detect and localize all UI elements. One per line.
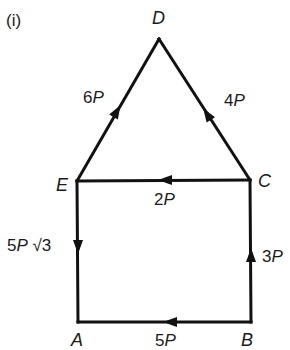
arrow-icon-CE: [158, 175, 172, 185]
diagram-canvas: (i) D E C A B 6P 4P 2P 5P √3 3P 5P: [0, 0, 290, 350]
figure-label: (i): [6, 11, 21, 30]
force-label-ED: 6P: [83, 88, 104, 107]
point-label-E: E: [56, 175, 69, 195]
arrow-icon-BA: [163, 317, 177, 327]
arrow-icon-EA: [73, 240, 83, 254]
point-label-D: D: [152, 8, 165, 28]
force-label-CD: 4P: [224, 91, 245, 110]
point-label-B: B: [241, 330, 253, 350]
force-diagram: (i) D E C A B 6P 4P 2P 5P √3 3P 5P: [0, 0, 290, 350]
point-label-A: A: [70, 330, 83, 350]
force-label-BA: 5P: [155, 331, 176, 350]
point-label-C: C: [258, 171, 272, 191]
force-label-BC: 3P: [262, 247, 283, 266]
force-label-CE: 2P: [154, 190, 175, 209]
force-label-EA: 5P √3: [7, 236, 51, 255]
arrow-icon-BC: [246, 248, 256, 262]
